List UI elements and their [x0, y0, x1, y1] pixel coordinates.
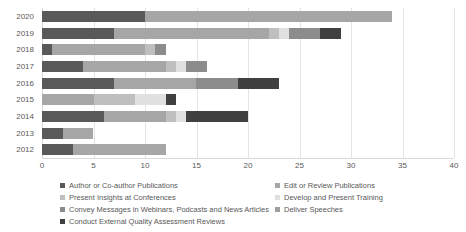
- legend-swatch-icon: [60, 183, 65, 188]
- legend-column-left: Author or Co-author PublicationsPresent …: [60, 180, 269, 228]
- bar-row[interactable]: [42, 94, 454, 105]
- legend-label: Present Insights at Conferences: [69, 193, 176, 202]
- bar-segment[interactable]: [145, 44, 155, 55]
- bar-segment[interactable]: [83, 61, 165, 72]
- x-axis: 0510152025303540: [42, 158, 454, 172]
- legend-item[interactable]: Edit or Review Publications: [275, 180, 383, 191]
- x-axis-line: [42, 158, 454, 159]
- bar-row[interactable]: [42, 144, 454, 155]
- bar-segment[interactable]: [279, 28, 289, 39]
- y-axis-label-2018: 2018: [16, 45, 34, 54]
- bar-series-container: [42, 8, 454, 158]
- y-axis: 202020192018201720162015201420132012: [0, 8, 38, 158]
- y-axis-label-2016: 2016: [16, 79, 34, 88]
- bar-row[interactable]: [42, 128, 454, 139]
- bar-stack-2020: [42, 11, 392, 22]
- bar-segment[interactable]: [145, 11, 392, 22]
- x-tick-label-25: 25: [295, 161, 304, 170]
- gridline-40: [454, 8, 455, 158]
- legend-swatch-icon: [60, 195, 65, 200]
- bar-stack-2014: [42, 111, 248, 122]
- x-tick-label-40: 40: [450, 161, 459, 170]
- bar-segment[interactable]: [42, 44, 52, 55]
- bar-segment[interactable]: [42, 94, 94, 105]
- bar-segment[interactable]: [42, 111, 104, 122]
- bar-segment[interactable]: [42, 78, 114, 89]
- bar-stack-2012: [42, 144, 166, 155]
- bar-stack-2017: [42, 61, 207, 72]
- bar-segment[interactable]: [269, 28, 279, 39]
- bar-segment[interactable]: [166, 61, 176, 72]
- x-tick-label-35: 35: [398, 161, 407, 170]
- bar-segment[interactable]: [73, 144, 166, 155]
- y-axis-label-2014: 2014: [16, 112, 34, 121]
- y-axis-label-2019: 2019: [16, 29, 34, 38]
- legend-swatch-icon: [60, 219, 65, 224]
- legend-item[interactable]: Deliver Speeches: [275, 204, 383, 215]
- legend-swatch-icon: [275, 183, 280, 188]
- bar-segment[interactable]: [289, 28, 320, 39]
- bar-segment[interactable]: [176, 61, 186, 72]
- bar-segment[interactable]: [166, 111, 176, 122]
- bar-segment[interactable]: [42, 11, 145, 22]
- bar-segment[interactable]: [42, 28, 114, 39]
- bar-stack-2019: [42, 28, 341, 39]
- bar-segment[interactable]: [42, 128, 63, 139]
- bar-stack-2016: [42, 78, 279, 89]
- bar-row[interactable]: [42, 78, 454, 89]
- bar-stack-2018: [42, 44, 166, 55]
- bar-segment[interactable]: [114, 28, 269, 39]
- bar-segment[interactable]: [104, 111, 166, 122]
- y-axis-label-2017: 2017: [16, 62, 34, 71]
- bar-row[interactable]: [42, 44, 454, 55]
- bar-segment[interactable]: [166, 94, 176, 105]
- legend-swatch-icon: [60, 207, 65, 212]
- bar-segment[interactable]: [238, 78, 279, 89]
- bar-segment[interactable]: [52, 44, 145, 55]
- bar-row[interactable]: [42, 111, 454, 122]
- legend-label: Edit or Review Publications: [284, 181, 375, 190]
- x-tick-label-5: 5: [91, 161, 95, 170]
- y-axis-label-2020: 2020: [16, 12, 34, 21]
- legend-label: Deliver Speeches: [284, 205, 343, 214]
- bar-segment[interactable]: [155, 44, 165, 55]
- stacked-bar-chart: 202020192018201720162015201420132012 051…: [0, 0, 466, 232]
- legend-label: Conduct External Quality Assessment Revi…: [69, 217, 225, 226]
- legend-item[interactable]: Convey Messages in Webinars, Podcasts an…: [60, 204, 269, 215]
- bar-stack-2015: [42, 94, 176, 105]
- bar-row[interactable]: [42, 11, 454, 22]
- x-tick-label-20: 20: [244, 161, 253, 170]
- legend-swatch-icon: [275, 207, 280, 212]
- bar-row[interactable]: [42, 61, 454, 72]
- bar-segment[interactable]: [94, 94, 135, 105]
- legend-swatch-icon: [275, 195, 280, 200]
- bar-stack-2013: [42, 128, 93, 139]
- y-axis-label-2012: 2012: [16, 145, 34, 154]
- x-tick-label-15: 15: [192, 161, 201, 170]
- legend-column-right: Edit or Review PublicationsDevelop and P…: [275, 180, 383, 216]
- bar-segment[interactable]: [135, 94, 166, 105]
- legend-item[interactable]: Present Insights at Conferences: [60, 192, 269, 203]
- x-tick-label-0: 0: [40, 161, 44, 170]
- x-tick-label-30: 30: [347, 161, 356, 170]
- y-axis-label-2013: 2013: [16, 129, 34, 138]
- bar-segment[interactable]: [196, 78, 237, 89]
- plot-area: [42, 8, 454, 158]
- bar-segment[interactable]: [186, 111, 248, 122]
- chart-legend: Author or Co-author PublicationsPresent …: [60, 180, 460, 228]
- bar-segment[interactable]: [320, 28, 341, 39]
- bar-segment[interactable]: [63, 128, 94, 139]
- legend-item[interactable]: Author or Co-author Publications: [60, 180, 269, 191]
- legend-label: Develop and Present Training: [284, 193, 383, 202]
- bar-segment[interactable]: [42, 61, 83, 72]
- bar-segment[interactable]: [42, 144, 73, 155]
- legend-label: Author or Co-author Publications: [69, 181, 178, 190]
- legend-label: Convey Messages in Webinars, Podcasts an…: [69, 205, 269, 214]
- bar-segment[interactable]: [114, 78, 196, 89]
- legend-item[interactable]: Conduct External Quality Assessment Revi…: [60, 216, 269, 227]
- bar-segment[interactable]: [186, 61, 207, 72]
- bar-segment[interactable]: [176, 111, 186, 122]
- bar-row[interactable]: [42, 28, 454, 39]
- y-axis-label-2015: 2015: [16, 95, 34, 104]
- legend-item[interactable]: Develop and Present Training: [275, 192, 383, 203]
